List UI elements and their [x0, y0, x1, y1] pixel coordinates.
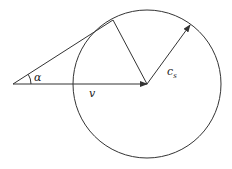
- radius-to-tangent: [113, 20, 147, 84]
- sound-speed-subscript: s: [173, 72, 177, 80]
- diagram-svg: [0, 0, 232, 169]
- velocity-label: v: [89, 88, 95, 99]
- tangent-line: [13, 20, 113, 84]
- sound-speed-label: cs: [167, 66, 177, 80]
- angle-arc: [28, 74, 31, 84]
- mach-cone-diagram: α v cs: [0, 0, 232, 169]
- alpha-label: α: [34, 72, 41, 83]
